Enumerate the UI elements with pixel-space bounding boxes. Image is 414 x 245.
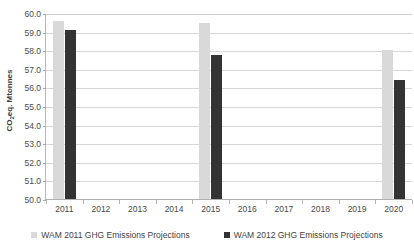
y-axis-tick-label: 57.0 <box>24 65 41 75</box>
legend-item[interactable]: WAM 2011 GHG Emissions Projections <box>31 230 189 240</box>
y-axis-tick-label: 56.0 <box>24 83 41 93</box>
bar <box>394 80 405 200</box>
bar <box>199 23 210 200</box>
y-axis-tick-mark <box>43 126 46 127</box>
y-axis-tick-labels: 60.059.058.057.056.055.054.053.052.051.0… <box>14 14 44 200</box>
gridline <box>46 88 412 89</box>
y-axis-title-text: CO2eq. Mtonnes <box>5 69 14 131</box>
x-axis-tick-label: 2020 <box>384 204 403 214</box>
bar-chart: CO2eq. Mtonnes 60.059.058.057.056.055.05… <box>0 0 414 245</box>
gridline <box>46 107 412 108</box>
legend-swatch-icon <box>31 232 37 238</box>
y-axis-tick-mark <box>43 70 46 71</box>
x-axis-tick-label: 2014 <box>165 204 184 214</box>
gridline <box>46 126 412 127</box>
y-axis-tick-mark <box>43 144 46 145</box>
gridline <box>46 33 412 34</box>
gridline <box>46 70 412 71</box>
y-axis-tick-label: 52.0 <box>24 158 41 168</box>
y-axis-tick-label: 59.0 <box>24 28 41 38</box>
x-axis-tick-label: 2018 <box>311 204 330 214</box>
gridline <box>46 144 412 145</box>
chart-legend: WAM 2011 GHG Emissions ProjectionsWAM 20… <box>0 224 414 245</box>
y-axis-tick-label: 54.0 <box>24 121 41 131</box>
bar <box>65 30 76 200</box>
gridline <box>46 181 412 182</box>
gridline <box>46 51 412 52</box>
x-axis-tick-label: 2012 <box>91 204 110 214</box>
y-axis-tick-label: 60.0 <box>24 9 41 19</box>
y-axis-tick-mark <box>43 88 46 89</box>
bar <box>211 55 222 200</box>
x-axis-tick-label: 2013 <box>128 204 147 214</box>
x-axis-tick-label: 2016 <box>238 204 257 214</box>
bar <box>53 21 64 200</box>
gridline <box>46 14 412 15</box>
y-axis-tick-label: 51.0 <box>24 176 41 186</box>
y-axis-tick-label: 53.0 <box>24 139 41 149</box>
legend-label: WAM 2011 GHG Emissions Projections <box>41 230 189 240</box>
x-axis-tick-label: 2015 <box>201 204 220 214</box>
bar <box>382 50 393 200</box>
y-axis-tick-mark <box>43 163 46 164</box>
legend-label: WAM 2012 GHG Emissions Projections <box>234 230 383 240</box>
plot-area <box>46 14 412 200</box>
y-axis-tick-label: 58.0 <box>24 46 41 56</box>
gridline <box>46 163 412 164</box>
y-axis-tick-mark <box>43 14 46 15</box>
x-axis-tick-mark <box>412 200 413 204</box>
x-axis-tick-label: 2019 <box>348 204 367 214</box>
x-axis-tick-label: 2011 <box>55 204 73 214</box>
y-axis-title-suffix: eq. Mtonnes <box>5 69 14 116</box>
x-axis-tick-label: 2017 <box>274 204 293 214</box>
legend-swatch-icon <box>224 232 230 238</box>
y-axis-tick-mark <box>43 51 46 52</box>
y-axis-tick-label: 55.0 <box>24 102 41 112</box>
y-axis-tick-mark <box>43 181 46 182</box>
x-axis-tick-labels: 2011201220132014201520162017201820192020 <box>46 202 412 218</box>
legend-item[interactable]: WAM 2012 GHG Emissions Projections <box>224 230 383 240</box>
y-axis-tick-mark <box>43 107 46 108</box>
y-axis-tick-mark <box>43 33 46 34</box>
y-axis-tick-label: 50.0 <box>24 195 41 205</box>
y-axis-title-prefix: CO <box>5 119 14 131</box>
